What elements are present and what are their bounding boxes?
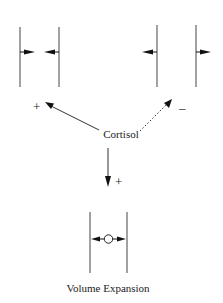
dotted-arrow-up-right-icon <box>140 99 172 131</box>
cortisol-label: Cortisol <box>103 128 138 140</box>
left-membrane-pair <box>20 27 59 87</box>
circle-icon <box>104 235 112 243</box>
outward-arrow-icon <box>196 50 211 55</box>
right-sign-label: – <box>178 100 186 115</box>
solid-arrow-up-left-icon <box>45 102 99 130</box>
solid-arrow-down-icon <box>105 148 111 187</box>
volume-expansion-label: Volume Expansion <box>66 282 150 294</box>
down-sign-label: + <box>115 174 122 189</box>
outward-arrow-icon <box>113 237 126 242</box>
inward-arrow-icon <box>20 50 35 55</box>
left-sign-label: + <box>33 99 40 114</box>
outward-arrow-icon <box>142 50 157 55</box>
cortisol-diagram: + – Cortisol + Volume Expansion <box>0 0 223 303</box>
right-membrane-pair <box>142 25 211 87</box>
outward-arrow-icon <box>91 237 104 242</box>
bottom-membrane-pair <box>90 212 127 273</box>
inward-arrow-icon <box>44 50 59 55</box>
